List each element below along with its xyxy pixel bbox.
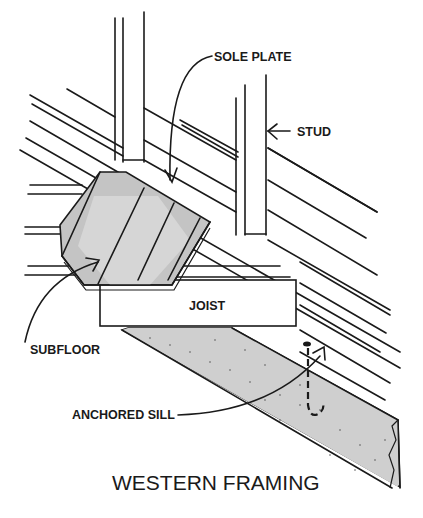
diagram-title: WESTERN FRAMING xyxy=(112,471,320,494)
label-sole-plate: SOLE PLATE xyxy=(214,50,292,64)
label-stud: STUD xyxy=(297,125,331,139)
label-joist: JOIST xyxy=(189,299,225,313)
framing-illustration: SOLE PLATE STUD JOIST SUBFLOOR ANCHORED … xyxy=(0,0,423,518)
subfloor-panel xyxy=(60,172,210,290)
label-subfloor: SUBFLOOR xyxy=(30,343,100,357)
label-anchored-sill: ANCHORED SILL xyxy=(72,408,175,422)
western-framing-diagram: SOLE PLATE STUD JOIST SUBFLOOR ANCHORED … xyxy=(0,0,423,518)
